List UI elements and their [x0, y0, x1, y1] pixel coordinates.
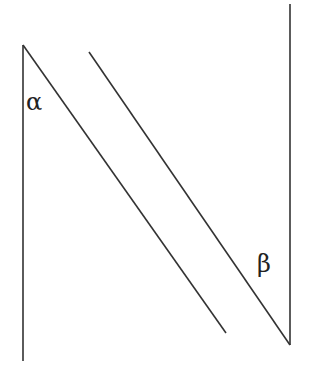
parallel-lines-diagram: α β: [0, 0, 312, 366]
left-diagonal-line: [23, 45, 226, 333]
angle-alpha-label: α: [26, 88, 42, 116]
right-diagonal-line: [89, 52, 290, 345]
angle-beta-label: β: [257, 250, 271, 278]
